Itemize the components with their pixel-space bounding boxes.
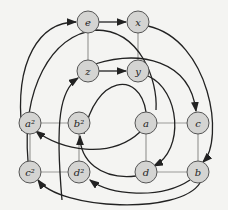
svg-text:d: d [143, 167, 149, 178]
grey-edges [30, 22, 198, 172]
node-y[interactable]: y [127, 60, 149, 82]
svg-text:y: y [134, 66, 141, 77]
node-a2[interactable]: a² [19, 112, 41, 134]
node-x[interactable]: x [127, 11, 149, 33]
svg-text:a²: a² [25, 118, 35, 129]
node-b2[interactable]: b² [68, 112, 90, 134]
node-c2[interactable]: c² [19, 161, 41, 183]
node-e[interactable]: e [77, 11, 99, 33]
svg-text:c: c [195, 118, 201, 129]
node-c[interactable]: c [187, 112, 209, 134]
svg-text:c²: c² [25, 167, 35, 178]
node-a[interactable]: a [135, 112, 157, 134]
node-z[interactable]: z [77, 60, 99, 82]
graph-diagram: e x z y a² b² a c c² d² d b [0, 0, 228, 210]
svg-text:b²: b² [74, 118, 84, 129]
svg-text:x: x [135, 17, 141, 28]
node-b[interactable]: b [187, 161, 209, 183]
arrow-edges [21, 22, 213, 205]
node-d[interactable]: d [135, 161, 157, 183]
svg-text:z: z [84, 66, 91, 77]
node-d2[interactable]: d² [68, 161, 90, 183]
svg-text:d²: d² [74, 167, 84, 178]
svg-text:a: a [143, 118, 149, 129]
svg-text:b: b [195, 167, 201, 178]
svg-text:e: e [85, 17, 91, 28]
